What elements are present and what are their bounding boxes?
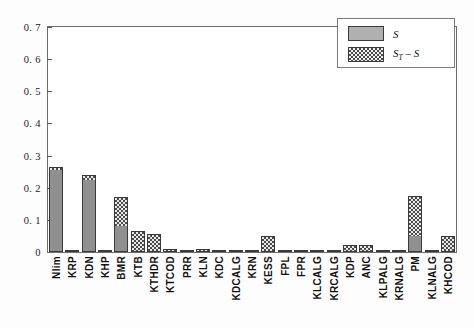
x-axis-label-ktb: KTB xyxy=(133,256,144,277)
bar-segment-s xyxy=(98,251,112,252)
y-axis-tick-label: 0 xyxy=(0,247,41,258)
bar-ktb xyxy=(131,231,145,252)
bar-segment-s xyxy=(131,251,145,252)
bar-segment-s xyxy=(49,170,63,252)
x-axis-label-kdn: KDN xyxy=(84,256,95,279)
x-axis-label-klnalg: KLNALG xyxy=(427,256,438,299)
x-axis-label-krn: KRN xyxy=(247,256,258,279)
bar-klnalg xyxy=(425,250,439,252)
y-axis-tick-label: 0. 7 xyxy=(0,22,41,33)
bar-segment-s xyxy=(441,251,455,252)
x-axis-label-ktcod: KTCOD xyxy=(165,256,176,293)
bar-khp xyxy=(98,250,112,252)
bar-segment-st-minus-s xyxy=(261,236,275,251)
bar-segment-st-minus-s xyxy=(408,196,422,236)
x-axis-label-pm: PM xyxy=(410,256,421,272)
legend-swatch-s xyxy=(348,26,384,41)
bar-kdn xyxy=(82,175,96,252)
bar-segment-s xyxy=(408,236,422,252)
legend-item-st-minus-s: ST – S xyxy=(348,47,419,62)
bar-segment-s xyxy=(343,251,357,252)
y-axis-tick-label: 0. 6 xyxy=(0,54,41,65)
bar-kdcalg xyxy=(229,250,243,252)
bar-segment-s xyxy=(163,251,177,252)
bar-segment-s xyxy=(392,251,406,252)
bar-segment-s xyxy=(294,251,308,252)
bar-segment-st-minus-s xyxy=(114,197,128,226)
x-axis-label-krcalg: KRCALG xyxy=(329,256,340,301)
bar-segment-s xyxy=(82,180,96,252)
bar-kdp xyxy=(343,245,357,252)
bar-segment-st-minus-s xyxy=(441,236,455,251)
y-axis-tick-label: 0. 4 xyxy=(0,118,41,129)
bar-segment-s xyxy=(180,251,194,252)
legend-label-st-tail: – S xyxy=(403,47,420,59)
bar-fpl xyxy=(278,250,292,252)
legend-item-s: S xyxy=(348,26,399,41)
bar-kln xyxy=(196,249,210,252)
bar-kess xyxy=(261,236,275,252)
x-axis-label-kln: KLN xyxy=(198,256,209,277)
x-axis-label-klcalg: KLCALG xyxy=(312,256,323,299)
bar-segment-s xyxy=(212,251,226,252)
x-axis-label-prr: PRR xyxy=(182,256,193,278)
x-axis-label-kdcalg: KDCALG xyxy=(231,256,242,301)
x-axis-label-khp: KHP xyxy=(100,256,111,278)
bar-pm xyxy=(408,196,422,252)
bar-klpalg xyxy=(376,250,390,252)
legend-label-s: S xyxy=(393,28,399,40)
bar-segment-s xyxy=(359,251,373,252)
x-axis-label-khcod: KHCOD xyxy=(443,256,454,294)
bar-segment-s xyxy=(196,251,210,252)
bar-krnalg xyxy=(392,250,406,252)
bar-kthdr xyxy=(147,234,161,252)
y-axis-tick-label: 0. 1 xyxy=(0,214,41,225)
y-axis-tick-label: 0. 3 xyxy=(0,150,41,161)
x-axis-label-krnalg: KRNALG xyxy=(394,256,405,301)
x-axis-label-kdc: KDC xyxy=(214,256,225,279)
x-axis-label-anc: ANC xyxy=(361,256,372,279)
x-axis-label-fpl: FPL xyxy=(280,256,291,276)
bar-krp xyxy=(65,250,79,252)
bar-bmr xyxy=(114,197,128,252)
bar-anc xyxy=(359,245,373,252)
bar-segment-s xyxy=(245,251,259,252)
bar-khcod xyxy=(441,236,455,252)
bar-krn xyxy=(245,250,259,252)
bar-fpr xyxy=(294,250,308,252)
x-axis-label-kdp: KDP xyxy=(345,256,356,278)
bar-klcalg xyxy=(310,250,324,252)
legend-swatch-st-minus-s xyxy=(348,47,384,62)
bar-prr xyxy=(180,250,194,252)
bar-segment-st-minus-s xyxy=(147,234,161,250)
x-axis-label-klpalg: KLPALG xyxy=(378,256,389,298)
bar-segment-s xyxy=(376,251,390,252)
x-axis-label-kthdr: KTHDR xyxy=(149,256,160,293)
chart-legend: S ST – S xyxy=(337,18,455,68)
x-axis-label-nlim: Nlim xyxy=(51,256,62,279)
y-axis-tick-label: 0. 5 xyxy=(0,86,41,97)
bar-segment-s xyxy=(65,251,79,252)
bar-segment-s xyxy=(261,251,275,252)
bar-ktcod xyxy=(163,249,177,252)
bar-krcalg xyxy=(327,250,341,252)
y-axis-tick-label: 0. 2 xyxy=(0,182,41,193)
x-axis-label-bmr: BMR xyxy=(116,256,127,280)
x-axis-label-krp: KRP xyxy=(67,256,78,278)
x-axis-label-kess: KESS xyxy=(263,256,274,284)
bar-kdc xyxy=(212,250,226,252)
bar-segment-s xyxy=(229,251,243,252)
bar-segment-st-minus-s xyxy=(131,231,145,251)
x-axis-label-fpr: FPR xyxy=(296,256,307,277)
bar-segment-s xyxy=(114,226,128,252)
chart-figure: 00. 10. 20. 30. 40. 50. 60. 7 NlimKRPKDN… xyxy=(0,0,474,328)
bar-segment-s xyxy=(278,251,292,252)
legend-label-st-minus-s: ST – S xyxy=(393,47,419,62)
bar-segment-s xyxy=(310,251,324,252)
bar-nlim xyxy=(49,167,63,252)
bar-segment-s xyxy=(327,251,341,252)
bar-segment-s xyxy=(147,251,161,252)
bar-segment-s xyxy=(425,251,439,252)
